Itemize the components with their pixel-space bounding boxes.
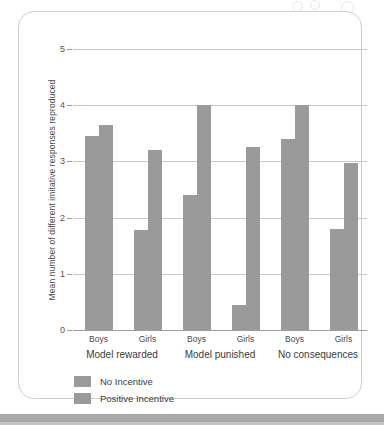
bar	[330, 229, 344, 330]
legend-swatch-no-incentive	[74, 376, 91, 387]
x-group-label: Model punished	[185, 349, 256, 360]
bar	[246, 147, 260, 330]
bar	[148, 150, 162, 330]
x-group-label: Model rewarded	[86, 349, 158, 360]
bar	[183, 195, 197, 330]
x-sub-label-boys: Boys	[187, 334, 206, 344]
plot-area: 012345	[73, 49, 367, 330]
x-sub-label-girls: Girls	[237, 334, 254, 344]
legend-label-positive-incentive: Positive Incentive	[100, 393, 174, 404]
bar	[85, 136, 99, 330]
y-tick-label-3: 3	[60, 156, 65, 166]
scan-artifact-dot	[310, 0, 320, 10]
y-tick-mark-5	[67, 49, 72, 50]
gridline-0	[73, 330, 367, 331]
y-tick-label-1: 1	[60, 269, 65, 279]
legend-item-positive-incentive: Positive Incentive	[74, 390, 274, 407]
bar	[197, 105, 211, 330]
y-axis-title-label: Mean number of different imitative respo…	[47, 79, 57, 300]
y-tick-mark-4	[67, 105, 72, 106]
legend-item-no-incentive: No Incentive	[74, 373, 274, 390]
x-group-label: No consequences	[278, 349, 358, 360]
gridline-2	[73, 218, 367, 219]
bar	[232, 305, 246, 330]
x-sub-label-girls: Girls	[335, 334, 352, 344]
chart-card: Mean number of different imitative respo…	[18, 11, 362, 399]
bottom-page-band	[0, 414, 384, 422]
y-tick-mark-1	[67, 274, 72, 275]
x-axis-labels: BoysGirlsModel rewardedBoysGirlsModel pu…	[73, 332, 367, 372]
gridline-1	[73, 274, 367, 275]
y-axis-title: Mean number of different imitative respo…	[45, 49, 59, 330]
x-sub-label-boys: Boys	[285, 334, 304, 344]
chart-legend: No Incentive Positive Incentive	[74, 373, 274, 407]
legend-swatch-positive-incentive	[74, 393, 91, 404]
bar	[134, 230, 148, 330]
y-tick-label-5: 5	[60, 44, 65, 54]
bar	[281, 139, 295, 330]
bar	[99, 125, 113, 330]
y-tick-label-4: 4	[60, 100, 65, 110]
y-tick-label-2: 2	[60, 213, 65, 223]
x-sub-label-girls: Girls	[139, 334, 156, 344]
y-tick-mark-0	[67, 330, 72, 331]
y-tick-label-0: 0	[60, 325, 65, 335]
x-sub-label-boys: Boys	[89, 334, 108, 344]
gridline-4	[73, 105, 367, 106]
bar	[295, 105, 309, 330]
gridline-5	[73, 49, 367, 50]
y-tick-mark-2	[67, 218, 72, 219]
legend-label-no-incentive: No Incentive	[100, 376, 153, 387]
bar	[344, 163, 358, 330]
y-tick-mark-3	[67, 161, 72, 162]
gridline-3	[73, 161, 367, 162]
